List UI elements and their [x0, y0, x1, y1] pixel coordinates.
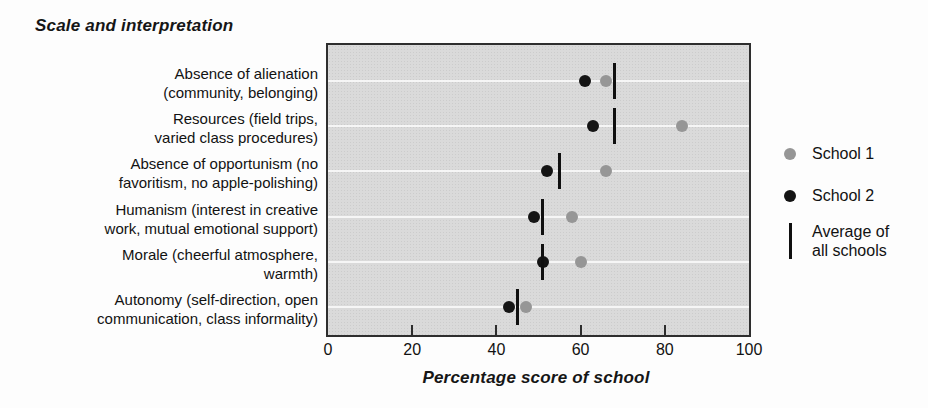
gridline: [328, 80, 749, 82]
average-line-icon: [784, 223, 796, 259]
x-tick: [664, 325, 666, 335]
school2-marker: [528, 211, 540, 223]
x-tick-label: 100: [736, 341, 763, 359]
average-marker: [613, 63, 616, 99]
x-tick: [580, 325, 582, 335]
school1-marker: [600, 165, 612, 177]
school1-marker: [566, 211, 578, 223]
school1-marker: [520, 301, 532, 313]
x-tick: [411, 325, 413, 335]
legend: School 1 School 2 Average of all schools: [784, 0, 924, 408]
figure-title: Scale and interpretation: [35, 16, 233, 36]
legend-item-average: Average of all schools: [784, 222, 908, 260]
school1-marker: [600, 75, 612, 87]
legend-item-school2: School 2: [784, 186, 874, 205]
legend-label-school2: School 2: [812, 186, 874, 205]
school2-dot-icon: [784, 190, 796, 202]
school2-marker: [503, 301, 515, 313]
school2-marker: [579, 75, 591, 87]
x-tick-label: 40: [487, 341, 505, 359]
category-label: Morale (cheerful atmosphere,warmth): [122, 245, 318, 283]
school1-dot-icon: [784, 148, 796, 160]
plot-area: [326, 43, 751, 337]
average-marker: [516, 289, 519, 325]
x-tick-label: 60: [572, 341, 590, 359]
school1-marker: [575, 256, 587, 268]
x-tick-label: 80: [656, 341, 674, 359]
average-marker: [541, 244, 544, 280]
legend-label-average: Average of all schools: [812, 222, 908, 260]
figure: Scale and interpretation Absence of alie…: [0, 0, 928, 408]
school2-marker: [587, 120, 599, 132]
x-tick: [495, 325, 497, 335]
x-tick-label: 0: [324, 341, 333, 359]
category-label: Resources (field trips,varied class proc…: [155, 109, 318, 147]
legend-label-school1: School 1: [812, 144, 874, 163]
gridline: [328, 306, 749, 308]
average-marker: [541, 199, 544, 235]
gridline: [328, 170, 749, 172]
category-label: Absence of opportunism (nofavoritism, no…: [119, 154, 318, 192]
average-marker: [558, 153, 561, 189]
x-tick-label: 20: [403, 341, 421, 359]
legend-item-school1: School 1: [784, 144, 874, 163]
average-marker: [613, 108, 616, 144]
school1-marker: [676, 120, 688, 132]
x-axis-title: Percentage score of school: [422, 368, 649, 388]
category-label: Autonomy (self-direction, opencommunicat…: [97, 290, 318, 328]
school2-marker: [541, 165, 553, 177]
category-label: Absence of alienation(community, belongi…: [163, 64, 318, 102]
category-label: Humanism (interest in creativework, mutu…: [105, 200, 318, 238]
